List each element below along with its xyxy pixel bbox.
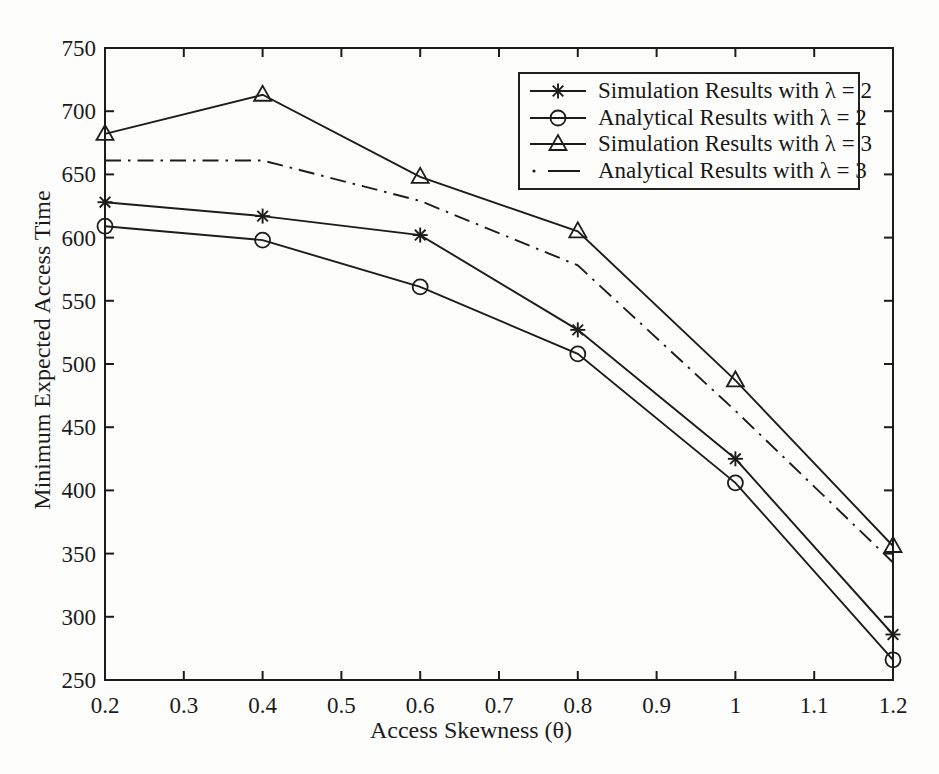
triangle-marker: [412, 168, 429, 183]
x-tick-label: 0.6: [406, 693, 435, 718]
x-tick-label: 0.3: [169, 693, 198, 718]
y-tick-label: 600: [62, 226, 97, 251]
y-tick-label: 750: [62, 36, 97, 61]
x-tick-label: 0.5: [327, 693, 356, 718]
x-tick-label: 1.1: [800, 693, 829, 718]
x-tick-label: 0.9: [642, 693, 671, 718]
y-tick-label: 550: [62, 289, 97, 314]
dashdot-dot: [532, 169, 535, 172]
chart-figure: 0.20.30.40.50.60.70.80.911.11.2250300350…: [0, 0, 939, 774]
legend-label: Analytical Results with λ = 3: [598, 158, 867, 184]
legend-sample-star-line: [528, 78, 590, 104]
y-tick-label: 400: [62, 478, 97, 503]
x-tick-label: 1: [730, 693, 742, 718]
legend-label: Simulation Results with λ = 2: [598, 78, 872, 104]
y-tick-label: 700: [62, 99, 97, 124]
legend-box: Simulation Results with λ = 2 Analytical…: [518, 72, 860, 190]
legend-label: Analytical Results with λ = 2: [598, 105, 867, 131]
x-tick-label: 1.2: [879, 693, 908, 718]
legend-entry-sim-lambda3: Simulation Results with λ = 3: [528, 131, 858, 157]
y-axis-label: Minimum Expected Access Time: [29, 190, 56, 509]
series-line-0: [105, 202, 893, 634]
y-tick-label: 450: [62, 415, 97, 440]
y-tick-label: 300: [62, 605, 97, 630]
y-tick-label: 500: [62, 352, 97, 377]
triangle-marker: [550, 135, 567, 150]
series-line-1: [105, 226, 893, 660]
x-axis-label: Access Skewness (θ): [370, 717, 572, 744]
legend-entry-sim-lambda2: Simulation Results with λ = 2: [528, 78, 858, 104]
legend-sample-triangle-line: [528, 131, 590, 157]
x-tick-label: 0.2: [91, 693, 120, 718]
x-tick-label: 0.4: [248, 693, 277, 718]
y-tick-label: 650: [62, 162, 97, 187]
legend-entry-ana-lambda2: Analytical Results with λ = 2: [528, 105, 858, 131]
x-tick-label: 0.7: [485, 693, 514, 718]
legend-sample-dashdot-line: [528, 158, 590, 184]
legend-sample-circle-line: [528, 105, 590, 131]
legend-label: Simulation Results with λ = 3: [598, 131, 872, 157]
legend-entry-ana-lambda3: Analytical Results with λ = 3: [528, 158, 858, 184]
x-tick-label: 0.8: [563, 693, 592, 718]
y-tick-label: 350: [62, 542, 97, 567]
y-tick-label: 250: [62, 668, 97, 693]
